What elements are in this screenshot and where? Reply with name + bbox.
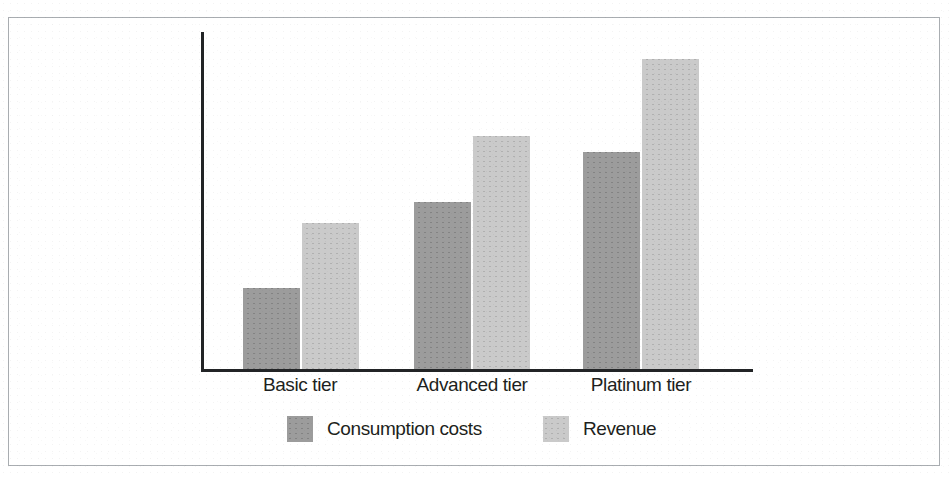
legend-label-consumption-costs: Consumption costs (327, 418, 482, 440)
bar-consumption-costs-advanced-tier (414, 202, 471, 369)
plot-area: Basic tier Advanced tier Platinum tier (0, 0, 950, 477)
legend-swatch-revenue (543, 416, 569, 442)
bar-consumption-costs-basic-tier (243, 288, 300, 369)
y-axis-line (201, 32, 204, 372)
legend-item-revenue: Revenue (543, 412, 656, 446)
legend-label-revenue: Revenue (583, 418, 656, 440)
bar-revenue-platinum-tier (642, 59, 699, 369)
bar-consumption-costs-platinum-tier (583, 152, 640, 369)
x-axis-label-platinum-tier: Platinum tier (541, 374, 741, 396)
legend-item-consumption-costs: Consumption costs (287, 412, 482, 446)
x-axis-label-basic-tier: Basic tier (200, 374, 400, 396)
bar-revenue-basic-tier (302, 223, 359, 369)
bar-chart-figure: Basic tier Advanced tier Platinum tier C… (0, 0, 950, 477)
chart-legend: Consumption costs Revenue (0, 412, 950, 452)
legend-swatch-consumption-costs (287, 416, 313, 442)
bar-revenue-advanced-tier (473, 136, 530, 369)
x-axis-line (201, 369, 753, 372)
